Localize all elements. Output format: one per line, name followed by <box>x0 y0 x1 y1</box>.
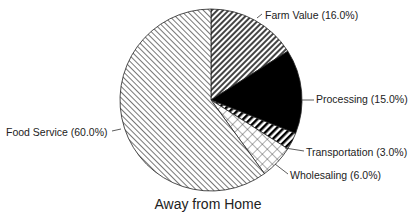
label-processing: Processing (15.0%) <box>316 93 408 105</box>
label-farm-value: Farm Value (16.0%) <box>265 9 358 21</box>
leader-line <box>257 14 262 18</box>
pie-chart <box>0 0 416 216</box>
label-food-service: Food Service (60.0%) <box>6 126 108 138</box>
chart-title: Away from Home <box>0 196 416 212</box>
leader-line <box>275 164 288 174</box>
label-wholesaling: Wholesaling (6.0%) <box>290 169 381 181</box>
leader-line <box>112 129 121 131</box>
leader-line <box>285 148 304 151</box>
label-transportation: Transportation (3.0%) <box>306 146 407 158</box>
